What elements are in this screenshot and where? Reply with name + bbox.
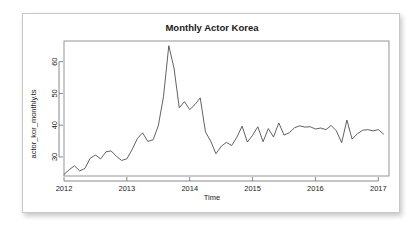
x-tick-label: 2016	[307, 184, 324, 193]
chart-title: Monthly Actor Korea	[165, 22, 259, 33]
y-axis-title: actor_kor_monthly.ts	[29, 89, 38, 158]
x-tick-label: 2012	[56, 184, 73, 193]
y-axis: 30405060	[50, 57, 63, 161]
x-tick-label: 2017	[370, 184, 387, 193]
series-group	[64, 46, 384, 175]
y-tick-label: 50	[50, 89, 59, 97]
y-tick-label: 40	[50, 121, 59, 129]
x-tick-label: 2015	[244, 184, 261, 193]
screenshot-root: Monthly Actor Korea actor_kor_monthly.ts…	[0, 0, 416, 229]
x-axis-title: Time	[204, 193, 220, 202]
x-axis: 201220132014201520162017	[56, 177, 387, 193]
y-tick-label: 30	[50, 153, 59, 161]
x-tick-label: 2014	[181, 184, 198, 193]
series-line	[64, 46, 384, 175]
y-tick-label: 60	[50, 57, 59, 65]
x-tick-label: 2013	[119, 184, 136, 193]
chart-plot: Monthly Actor Korea actor_kor_monthly.ts…	[23, 14, 400, 213]
plot-frame	[64, 41, 389, 176]
figure-card: Monthly Actor Korea actor_kor_monthly.ts…	[22, 13, 400, 213]
